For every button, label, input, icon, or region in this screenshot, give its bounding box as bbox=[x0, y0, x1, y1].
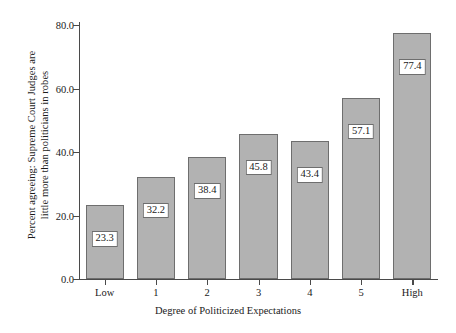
y-axis-title-line-1: Percent agreeing: Supreme Court Judges a… bbox=[25, 51, 38, 239]
bar-value-label: 45.8 bbox=[245, 160, 271, 176]
y-axis-tick-label: 40.0 bbox=[40, 147, 74, 158]
y-axis-tick-mark bbox=[73, 216, 79, 217]
y-axis-tick-label: 20.0 bbox=[40, 210, 74, 221]
x-axis-tick-mark bbox=[361, 280, 362, 285]
bar bbox=[188, 157, 226, 279]
bar bbox=[239, 134, 277, 279]
x-axis-tick-label: Low bbox=[95, 287, 114, 298]
bar-value-label: 32.2 bbox=[143, 203, 169, 219]
x-axis-title: Degree of Politicized Expectations bbox=[0, 305, 456, 316]
x-axis-tick-label: 5 bbox=[358, 287, 363, 298]
bar-value-label: 77.4 bbox=[399, 59, 425, 75]
x-axis-tick-mark bbox=[310, 280, 311, 285]
bar bbox=[137, 177, 175, 279]
x-axis-tick-mark bbox=[412, 280, 413, 285]
x-axis-tick-label: 2 bbox=[205, 287, 210, 298]
bar-value-label: 23.3 bbox=[91, 231, 117, 247]
y-axis-tick-label: 0.0 bbox=[40, 274, 74, 285]
bar-chart: Percent agreeing: Supreme Court Judges a… bbox=[0, 0, 456, 333]
x-axis-tick-mark bbox=[207, 280, 208, 285]
y-axis-line bbox=[79, 22, 80, 280]
x-axis-tick-label: 1 bbox=[153, 287, 158, 298]
x-axis-tick-mark bbox=[259, 280, 260, 285]
y-axis-tick-mark bbox=[73, 279, 79, 280]
bar-value-label: 57.1 bbox=[348, 124, 374, 140]
x-axis-tick-label: High bbox=[402, 287, 423, 298]
x-axis-tick-mark bbox=[105, 280, 106, 285]
y-axis-tick-label: 80.0 bbox=[40, 20, 74, 31]
bar bbox=[291, 141, 329, 279]
bar-value-label: 43.4 bbox=[297, 167, 323, 183]
y-axis-tick-mark bbox=[73, 152, 79, 153]
x-axis-tick-label: 4 bbox=[307, 287, 312, 298]
y-axis-tick-mark bbox=[73, 89, 79, 90]
bar-value-label: 38.4 bbox=[194, 183, 220, 199]
y-axis-tick-labels: 0.020.040.060.080.0 bbox=[38, 0, 74, 333]
y-axis-tick-label: 60.0 bbox=[40, 83, 74, 94]
x-axis-tick-label: 3 bbox=[256, 287, 261, 298]
y-axis-tick-mark bbox=[73, 25, 79, 26]
x-axis-tick-mark bbox=[156, 280, 157, 285]
